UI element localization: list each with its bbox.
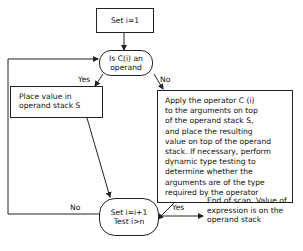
edge-decision-to-place-value (95, 74, 103, 86)
place-value-text-line-2: operand stack S (19, 101, 102, 110)
edge-label-no-top: No (160, 75, 170, 84)
end-text-line-3: operand stack (207, 215, 287, 225)
increment-text-line-2: Test i>n (100, 217, 158, 226)
apply-operator-node: Apply the operator C (i) to the argument… (157, 90, 293, 203)
edge-label-no-bottom: No (70, 203, 80, 212)
edge-place-value-to-increment (87, 118, 110, 197)
apply-text-line-7: dynamic type testing to (165, 157, 292, 167)
place-value-node: Place value in operand stack S (10, 86, 103, 118)
apply-text-line-6: stack. If necessary, perform (165, 147, 292, 157)
place-value-text-line-1: Place value in (19, 92, 102, 101)
end-text-line-1: End of scan. Value of (207, 196, 287, 206)
end-text-line-2: expression is on the (207, 206, 287, 216)
apply-text-line-3: of the operand stack S, (165, 116, 292, 126)
end-node-text: End of scan. Value of expression is on t… (207, 196, 287, 225)
decision-operand-node: Is C(i) an operand (99, 50, 153, 76)
edge-label-yes-top: Yes (78, 75, 90, 84)
decision-text-line-1: Is C(i) an (100, 54, 152, 63)
apply-text-line-1: Apply the operator C (i) (165, 96, 292, 106)
apply-text-line-8: determine whether the (165, 167, 292, 177)
apply-text-line-2: to the arguments on top (165, 106, 292, 116)
increment-text-line-1: Set i=i+1 (100, 208, 158, 217)
apply-text-line-5: value on top of the operand (165, 137, 292, 147)
decision-text-line-2: operand (100, 63, 152, 72)
apply-text-line-9: arguments are of the type (165, 178, 292, 188)
start-node-text: Set i=1 (111, 16, 139, 25)
apply-text-line-4: and place the resulting (165, 127, 292, 137)
edge-label-yes-bottom: Yes (172, 203, 184, 212)
start-node: Set i=1 (96, 8, 154, 33)
increment-test-node: Set i=i+1 Test i>n (99, 198, 159, 236)
